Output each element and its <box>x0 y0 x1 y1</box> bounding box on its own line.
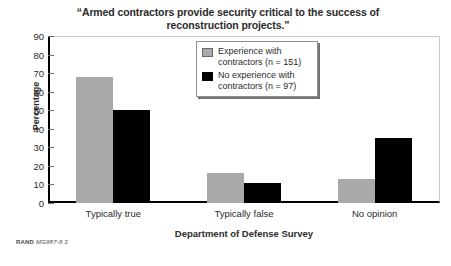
legend-label: No experience withcontractors (n = 97) <box>218 70 296 91</box>
y-axis-labels: 0102030405060708090 <box>0 36 44 203</box>
bar <box>207 173 244 203</box>
y-axis-tick-label: 50 <box>4 105 44 116</box>
y-axis-tick-label: 0 <box>4 198 44 209</box>
chart-title: “Armed contractors provide security crit… <box>48 6 408 32</box>
x-axis-category-label: Typically false <box>184 208 304 219</box>
y-axis-tick-label: 10 <box>4 179 44 190</box>
bar <box>113 110 150 203</box>
bar <box>244 183 281 203</box>
y-axis-tick-label: 40 <box>4 123 44 134</box>
legend-swatch <box>202 48 213 57</box>
legend-item: Experience withcontractors (n = 151) <box>202 46 312 67</box>
bar <box>338 179 375 203</box>
y-axis-tick-label: 80 <box>4 49 44 60</box>
x-axis-title: Department of Defense Survey <box>48 228 440 239</box>
x-axis-category-label: Typically true <box>53 208 173 219</box>
y-axis-tick-label: 70 <box>4 68 44 79</box>
figure-source-note: RAND MG987-8.3 <box>16 239 68 245</box>
figure-source-prefix: RAND <box>16 239 34 245</box>
legend-item: No experience withcontractors (n = 97) <box>202 70 312 91</box>
x-axis-category-label: No opinion <box>315 208 435 219</box>
y-axis-tick-mark <box>48 203 54 204</box>
bar <box>76 77 113 203</box>
bar <box>375 138 412 203</box>
y-axis-tick-label: 30 <box>4 142 44 153</box>
chart-legend: Experience withcontractors (n = 151)No e… <box>196 41 318 97</box>
y-axis-tick-label: 90 <box>4 31 44 42</box>
legend-swatch <box>202 72 213 81</box>
figure-source-id: MG987-8.3 <box>36 239 68 245</box>
legend-label: Experience withcontractors (n = 151) <box>218 46 301 67</box>
y-axis-tick-label: 20 <box>4 160 44 171</box>
y-axis-tick-label: 60 <box>4 86 44 97</box>
